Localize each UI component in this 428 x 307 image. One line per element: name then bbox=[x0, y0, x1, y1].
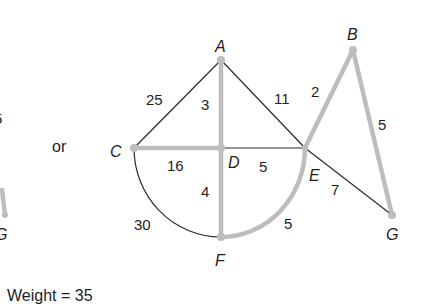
node-C bbox=[130, 144, 138, 152]
node-D bbox=[217, 144, 225, 152]
vertex-label-A: A bbox=[214, 38, 226, 55]
node-A bbox=[217, 56, 225, 64]
node-B bbox=[349, 46, 357, 54]
or-separator: or bbox=[52, 138, 67, 155]
vertex-label-C: C bbox=[110, 143, 122, 160]
weight-label-B-G: 5 bbox=[378, 116, 386, 133]
node-E bbox=[302, 145, 308, 151]
weight-label-E-B: 2 bbox=[311, 83, 319, 100]
vertex-label-B: B bbox=[347, 26, 358, 43]
weight-label-D-E: 5 bbox=[259, 158, 267, 175]
fragment-vertex-label: G bbox=[0, 226, 7, 243]
fragment-edge bbox=[2, 190, 5, 214]
graph-diagram: 5 G or A B C D E F G 25 3 11 2 5 16 5 4 … bbox=[0, 0, 428, 307]
weight-label-A-D: 3 bbox=[201, 96, 209, 113]
weight-label-C-F: 30 bbox=[134, 216, 151, 233]
left-fragment: 5 G bbox=[0, 110, 8, 243]
weight-caption: Weight = 35 bbox=[7, 287, 93, 304]
weight-label-A-E: 11 bbox=[274, 90, 290, 107]
weight-label-C-D: 16 bbox=[167, 157, 184, 174]
weight-label-D-F: 4 bbox=[201, 183, 209, 200]
weight-label-C-A: 25 bbox=[146, 91, 163, 108]
edge-A-E bbox=[221, 60, 305, 148]
vertex-label-D: D bbox=[228, 154, 240, 171]
weight-label-E-G: 7 bbox=[331, 181, 339, 198]
vertex-label-E: E bbox=[309, 167, 320, 184]
vertex-label-F: F bbox=[215, 252, 226, 269]
fragment-weight-label: 5 bbox=[0, 110, 2, 127]
vertex-label-G: G bbox=[386, 226, 398, 243]
node-G bbox=[388, 211, 396, 219]
fragment-node bbox=[2, 212, 8, 218]
node-F bbox=[217, 233, 225, 241]
weight-label-F-E: 5 bbox=[284, 215, 292, 232]
